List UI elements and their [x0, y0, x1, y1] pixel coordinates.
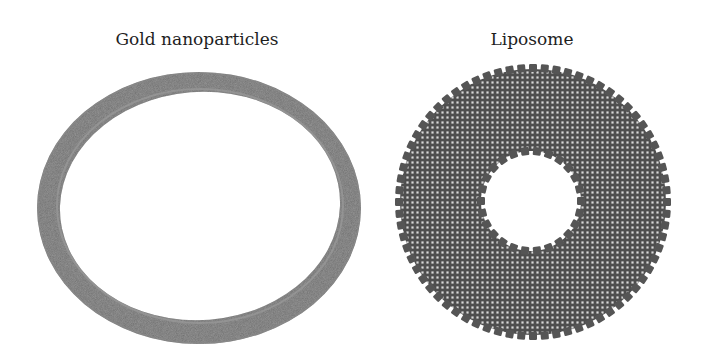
gold-nanoparticle-ring — [37, 72, 361, 344]
liposome-disc — [390, 60, 680, 350]
